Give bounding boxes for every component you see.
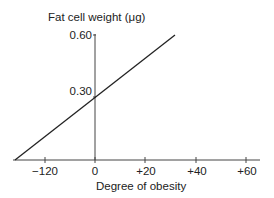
x-tick-label-20: +20 bbox=[136, 166, 156, 178]
x-tick-label-40: +40 bbox=[187, 166, 207, 178]
x-axis-label: Degree of obesity bbox=[96, 181, 186, 193]
y-axis-label: Fat cell weight (μg) bbox=[48, 12, 145, 24]
x-tick-label-0: 0 bbox=[92, 166, 98, 178]
x-tick-label-60: +60 bbox=[237, 166, 257, 178]
y-tick-label-030: 0.30 bbox=[70, 86, 92, 98]
x-tick-label-neg120: −120 bbox=[32, 166, 58, 178]
y-tick-label-060: 0.60 bbox=[70, 30, 92, 42]
